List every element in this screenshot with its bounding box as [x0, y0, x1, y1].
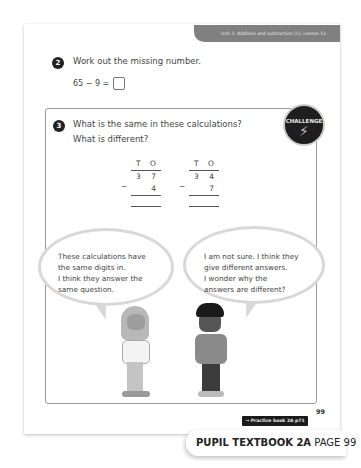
question-number-badge: 3	[53, 120, 65, 132]
question-prompt-line2: What is different?	[73, 134, 148, 144]
speech-bubble-boy: I am not sure. I think they give differe…	[183, 226, 325, 304]
column-subtraction-2: TO 34 − 7	[189, 158, 219, 207]
speech-line: answers are different?	[204, 284, 322, 295]
boy-shoes	[198, 391, 224, 397]
equation-text: 65 − 9 =	[73, 79, 109, 88]
minus-sign: −	[121, 182, 127, 191]
speech-bubble-girl: These calculations have the same digits …	[38, 228, 174, 306]
girl-body	[122, 340, 150, 364]
top-ones-digit: 4	[209, 171, 214, 183]
girl-shoes	[122, 391, 150, 397]
speech-line: I think they answer the	[58, 273, 171, 284]
speech-line: same question.	[58, 284, 171, 295]
speech-line: I wonder why the	[204, 273, 322, 284]
ones-header: O	[150, 158, 156, 170]
ones-header: O	[208, 158, 214, 170]
speech-line: give different answers.	[204, 262, 322, 273]
speech-line: These calculations have	[58, 251, 171, 262]
answer-underline	[131, 206, 161, 207]
boy-hair	[196, 303, 224, 317]
answer-line	[131, 195, 161, 196]
missing-number-equation: 65 − 9 =	[73, 77, 125, 90]
answer-line	[189, 195, 219, 196]
footer-caption: PUPIL TEXTBOOK 2A PAGE 99	[186, 430, 346, 456]
boy-body	[195, 334, 227, 364]
minus-sign: −	[179, 182, 185, 191]
page-label: PAGE 99	[314, 437, 356, 448]
lightning-bolt-icon: ⚡	[285, 123, 323, 139]
answer-underline	[189, 206, 219, 207]
top-tens-digit: 3	[194, 171, 199, 183]
bottom-ones-digit: 7	[209, 183, 214, 195]
boy-legs	[202, 364, 220, 392]
top-ones-digit: 7	[151, 171, 156, 183]
girl-face	[127, 314, 145, 330]
challenge-badge: CHALLENGE ⚡	[283, 104, 325, 146]
book-title: PUPIL TEXTBOOK 2A	[196, 437, 311, 448]
practice-book-link[interactable]: → Practice book 2A p71	[242, 416, 308, 426]
question-number-badge: 2	[52, 57, 64, 69]
tens-header: T	[136, 158, 141, 170]
answer-box[interactable]	[113, 77, 125, 90]
question-prompt-line1: What is the same in these calculations?	[73, 119, 242, 129]
speech-line: I am not sure. I think they	[204, 251, 322, 262]
top-tens-digit: 3	[136, 171, 141, 183]
bottom-ones-digit: 4	[151, 183, 156, 195]
speech-line: the same digits in.	[58, 262, 171, 273]
page-number: 99	[316, 408, 325, 416]
column-subtraction-1: TO 37 − 4	[131, 158, 161, 207]
tens-header: T	[194, 158, 199, 170]
girl-legs	[127, 362, 143, 392]
unit-header-tab: Unit 2: Addition and subtraction (1), Le…	[194, 25, 340, 42]
question-prompt: Work out the missing number.	[73, 56, 201, 66]
